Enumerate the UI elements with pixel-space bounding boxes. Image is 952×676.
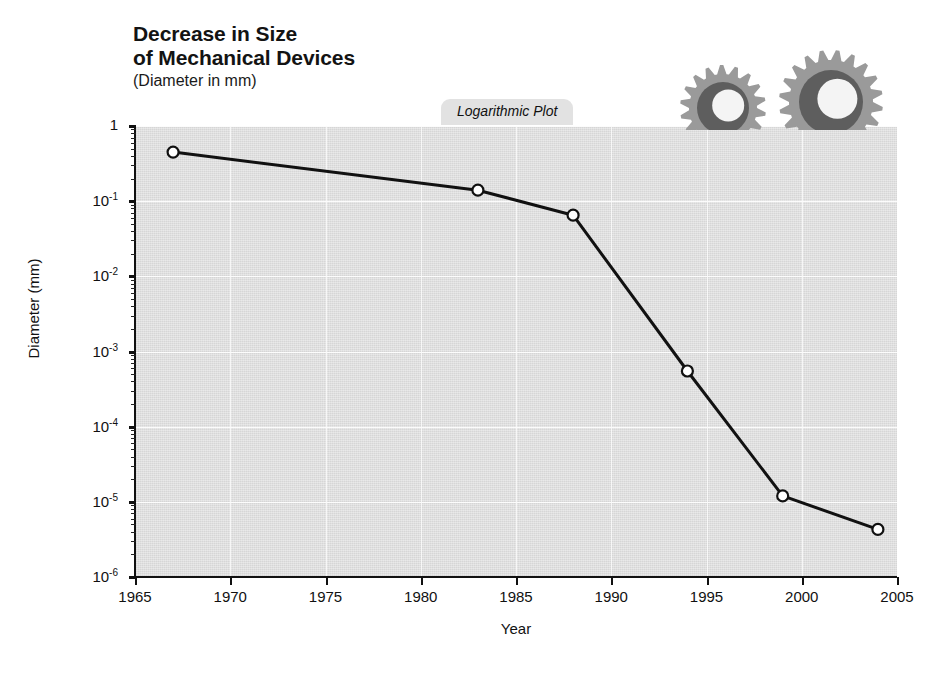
y-tick-minor bbox=[131, 466, 136, 467]
y-tick-minor bbox=[131, 391, 136, 392]
y-tick-minor bbox=[131, 205, 136, 206]
x-tick-label: 1970 bbox=[200, 588, 260, 605]
data-point-marker bbox=[472, 185, 483, 196]
x-tick bbox=[707, 577, 709, 585]
y-axis-title: Diameter (mm) bbox=[25, 214, 42, 404]
gear-icon-left bbox=[680, 40, 766, 130]
y-tick-minor bbox=[131, 138, 136, 139]
y-tick-major bbox=[129, 275, 136, 278]
data-point-marker bbox=[682, 366, 693, 377]
y-tick-major bbox=[129, 125, 136, 128]
y-tick-minor bbox=[131, 524, 136, 525]
y-tick-minor bbox=[131, 368, 136, 369]
gear-icon-right bbox=[779, 50, 883, 130]
y-tick-minor bbox=[131, 306, 136, 307]
y-tick-label: 1 bbox=[60, 116, 118, 133]
data-point-marker bbox=[872, 524, 883, 535]
y-tick-minor bbox=[131, 438, 136, 439]
x-tick bbox=[611, 577, 613, 585]
y-tick-label: 10-4 bbox=[60, 417, 118, 435]
chart-subtitle: (Diameter in mm) bbox=[133, 72, 355, 90]
x-axis-title: Year bbox=[135, 620, 897, 637]
y-tick-minor bbox=[131, 449, 136, 450]
series-line bbox=[173, 152, 878, 529]
y-tick-major bbox=[129, 351, 136, 354]
x-tick bbox=[230, 577, 232, 585]
y-tick-minor bbox=[131, 363, 136, 364]
y-tick-minor bbox=[131, 293, 136, 294]
title-block: Decrease in Size of Mechanical Devices (… bbox=[133, 22, 355, 90]
gear-bore bbox=[712, 89, 744, 121]
data-point-marker bbox=[568, 210, 579, 221]
y-tick-minor bbox=[131, 532, 136, 533]
y-tick-minor bbox=[131, 133, 136, 134]
data-point-marker bbox=[777, 490, 788, 501]
y-tick-minor bbox=[131, 541, 136, 542]
y-tick-label: 10-6 bbox=[60, 567, 118, 585]
y-tick-minor bbox=[131, 457, 136, 458]
y-tick-minor bbox=[131, 165, 136, 166]
y-tick-minor bbox=[131, 240, 136, 241]
y-tick-major bbox=[129, 426, 136, 429]
y-tick-major bbox=[129, 200, 136, 203]
y-tick-minor bbox=[131, 156, 136, 157]
x-tick bbox=[516, 577, 518, 585]
y-tick-minor bbox=[131, 284, 136, 285]
y-tick-minor bbox=[131, 208, 136, 209]
chart-figure: Decrease in Size of Mechanical Devices (… bbox=[0, 0, 952, 676]
y-tick-minor bbox=[131, 443, 136, 444]
y-tick-minor bbox=[131, 329, 136, 330]
x-tick bbox=[897, 577, 899, 585]
y-tick-minor bbox=[131, 316, 136, 317]
y-tick-minor bbox=[131, 355, 136, 356]
x-tick-label: 1990 bbox=[581, 588, 641, 605]
gears-svg bbox=[645, 22, 915, 130]
y-tick-minor bbox=[131, 479, 136, 480]
series-layer bbox=[135, 126, 897, 577]
y-tick-minor bbox=[131, 280, 136, 281]
y-tick-minor bbox=[131, 381, 136, 382]
y-tick-minor bbox=[131, 434, 136, 435]
gear-illustration bbox=[645, 22, 915, 130]
y-tick-minor bbox=[131, 404, 136, 405]
logarithmic-plot-tab: Logarithmic Plot bbox=[441, 99, 573, 125]
plot-area bbox=[135, 126, 897, 577]
y-tick-minor bbox=[131, 129, 136, 130]
y-tick-minor bbox=[131, 299, 136, 300]
y-tick-minor bbox=[131, 374, 136, 375]
x-tick bbox=[802, 577, 804, 585]
data-point-marker bbox=[168, 147, 179, 158]
y-tick-minor bbox=[131, 554, 136, 555]
x-tick-label: 1965 bbox=[105, 588, 165, 605]
gear-bore bbox=[817, 79, 857, 119]
y-tick-label: 10-1 bbox=[60, 191, 118, 209]
y-tick-minor bbox=[131, 224, 136, 225]
page-title: Decrease in Size of Mechanical Devices bbox=[133, 22, 355, 69]
x-tick-label: 1975 bbox=[296, 588, 356, 605]
x-tick bbox=[135, 577, 137, 585]
x-tick-label: 2005 bbox=[867, 588, 927, 605]
x-tick bbox=[421, 577, 423, 585]
y-tick-minor bbox=[131, 513, 136, 514]
y-tick-minor bbox=[131, 505, 136, 506]
y-tick-minor bbox=[131, 213, 136, 214]
x-tick bbox=[326, 577, 328, 585]
y-tick-major bbox=[129, 501, 136, 504]
y-tick-label: 10-2 bbox=[60, 266, 118, 284]
y-tick-minor bbox=[131, 430, 136, 431]
y-tick-minor bbox=[131, 231, 136, 232]
y-tick-minor bbox=[131, 149, 136, 150]
y-tick-label: 10-3 bbox=[60, 342, 118, 360]
x-tick-label: 2000 bbox=[772, 588, 832, 605]
y-tick-minor bbox=[131, 509, 136, 510]
x-tick-label: 1980 bbox=[391, 588, 451, 605]
y-tick-minor bbox=[131, 254, 136, 255]
y-tick-label: 10-5 bbox=[60, 492, 118, 510]
y-tick-minor bbox=[131, 288, 136, 289]
y-tick-minor bbox=[131, 359, 136, 360]
y-tick-minor bbox=[131, 519, 136, 520]
y-tick-minor bbox=[131, 218, 136, 219]
x-tick-label: 1985 bbox=[486, 588, 546, 605]
y-tick-minor bbox=[131, 179, 136, 180]
y-tick-minor bbox=[131, 143, 136, 144]
